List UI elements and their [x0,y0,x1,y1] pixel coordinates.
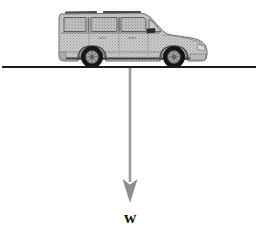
window-rear-door [91,18,117,32]
hub-spokes-front [168,51,179,63]
vehicle-suv [59,12,207,68]
rear-bumper [59,52,66,60]
hub-spokes-rear [86,51,97,63]
side-mirror [147,29,155,34]
window-front-door [121,18,146,32]
door-handle-rear [98,37,106,39]
front-bumper [190,54,206,60]
physics-diagram-figure: w [0,0,261,233]
wheel-rear [81,46,103,68]
window-rear-quarter [64,18,86,32]
weight-force-label: w [0,209,261,226]
weight-force-arrow [123,68,138,203]
diagram-canvas [0,0,261,233]
roof-rail-rear [66,12,96,13]
weight-arrow-head [123,179,138,203]
door-handle-front [128,37,136,39]
wheel-front [163,46,185,68]
